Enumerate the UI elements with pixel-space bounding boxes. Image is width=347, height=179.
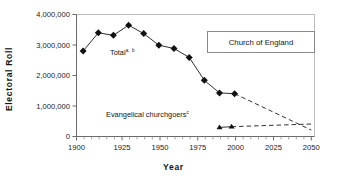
y-tick-label-3000000: 3,000,000	[6, 41, 70, 50]
y-tick-label-2000000: 2,000,000	[6, 71, 70, 80]
x-tick-label-2050: 2050	[293, 143, 329, 152]
callout-label: Church of England	[229, 38, 294, 47]
x-tick-label-1925: 1925	[104, 143, 140, 152]
x-axis-title: Year	[0, 162, 347, 172]
y-axis-title: Electoral Roll	[4, 43, 14, 115]
series-label-total-text: Total	[110, 48, 126, 57]
series-label-total-superscript: a, b	[126, 48, 135, 53]
chart-plot-area	[0, 0, 347, 179]
x-tick-label-2025: 2025	[256, 143, 292, 152]
series-label-evangelical: Evangelical churchgoersc	[106, 110, 189, 119]
y-tick-label-1000000: 1,000,000	[6, 102, 70, 111]
y-tick-label-0: 0	[6, 132, 70, 141]
callout-box: Church of England	[207, 31, 315, 53]
x-tick-label-1975: 1975	[180, 143, 216, 152]
series-label-total: Totala, b	[110, 48, 135, 57]
y-axis-ticks	[73, 15, 77, 137]
x-tick-label-1950: 1950	[142, 143, 178, 152]
series-label-evangelical-text: Evangelical churchgoers	[106, 110, 187, 119]
x-axis-major-ticks	[77, 137, 312, 141]
chart-figure: 4,000,000 3,000,000 2,000,000 1,000,000 …	[0, 0, 347, 179]
y-tick-label-4000000: 4,000,000	[6, 10, 70, 19]
series-label-evangelical-superscript: c	[187, 110, 190, 115]
x-tick-label-1900: 1900	[59, 143, 95, 152]
x-tick-label-2000: 2000	[218, 143, 254, 152]
